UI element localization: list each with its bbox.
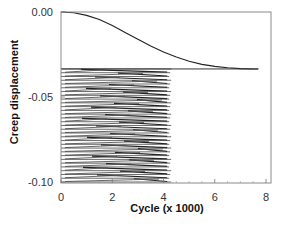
y-axis-title: Creep displacement <box>8 39 20 144</box>
x-axis-title: Cycle (x 1000) <box>130 202 204 214</box>
creep-curve <box>61 12 258 69</box>
creep-displacement-chart: 02468 0.00-0.05-0.10 Cycle (x 1000) Cree… <box>0 0 286 226</box>
x-tick-label: 6 <box>212 191 218 203</box>
y-axis-ticks: 0.00-0.05-0.10 <box>28 6 65 188</box>
x-tick-label: 2 <box>109 191 115 203</box>
x-tick-label: 8 <box>263 191 269 203</box>
y-tick-label: 0.00 <box>32 6 53 18</box>
x-tick-label: 0 <box>58 191 64 203</box>
y-tick-label: -0.10 <box>28 176 53 188</box>
y-tick-label: -0.05 <box>28 91 53 103</box>
oscillation-band <box>61 69 171 182</box>
